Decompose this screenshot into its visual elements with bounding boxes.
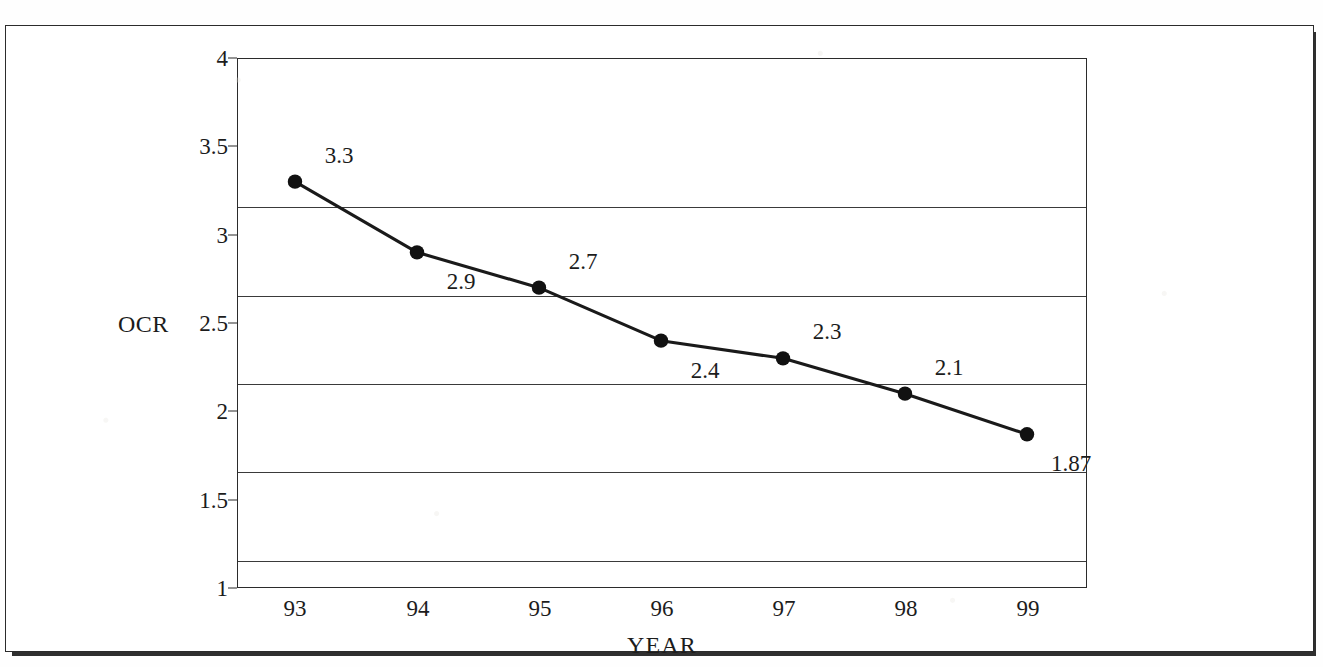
x-axis-tick-93: 93 [284,596,307,622]
data-point-99 [1020,427,1034,441]
x-axis-title: YEAR [627,632,697,659]
x-axis-tick-95: 95 [529,596,552,622]
y-axis-tick-3: 3 [217,223,238,246]
data-series-ocr [237,58,1087,588]
x-axis-tick-98: 98 [895,596,918,622]
y-axis-tick-1: 1 [217,577,238,600]
data-label-93: 3.3 [325,143,354,169]
data-point-98 [898,386,912,400]
data-label-99: 1.87 [1051,451,1091,477]
data-point-97 [776,351,790,365]
data-point-96 [654,333,668,347]
x-axis-tick-99: 99 [1017,596,1040,622]
series-markers [288,174,1034,441]
y-axis-tick-2.5: 2.5 [199,312,237,335]
y-axis-title: OCR [118,311,169,338]
y-axis-tick-2: 2 [217,400,238,423]
x-axis-tick-96: 96 [651,596,674,622]
chart-page: 4 3.5 3 2.5 2 1.5 1 OCR 93 94 95 96 97 9… [0,0,1323,667]
x-axis-tick-97: 97 [773,596,796,622]
x-axis-tick-94: 94 [407,596,430,622]
data-point-93 [288,174,302,188]
y-axis-tick-4: 4 [217,47,238,70]
data-label-96: 2.4 [691,358,720,384]
series-line [295,182,1027,435]
data-point-95 [532,280,546,294]
data-label-98: 2.1 [935,355,964,381]
data-label-94: 2.9 [447,269,476,295]
data-point-94 [410,245,424,259]
data-label-95: 2.7 [569,249,598,275]
y-axis-tick-3.5: 3.5 [199,135,237,158]
chart-canvas: 4 3.5 3 2.5 2 1.5 1 OCR 93 94 95 96 97 9… [0,0,1323,667]
data-label-97: 2.3 [813,319,842,345]
y-axis-tick-1.5: 1.5 [199,488,237,511]
